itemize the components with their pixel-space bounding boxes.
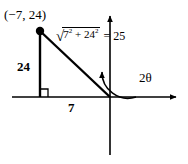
radical-expression: √ 72 + 242	[56, 28, 100, 43]
terminal-point-dot	[36, 27, 44, 35]
radicand-second-exponent: 2	[95, 27, 99, 35]
hypotenuse-equals-value: = 25	[103, 30, 125, 42]
vertical-leg-label: 24	[17, 60, 30, 73]
radicand-plus-operator: +	[72, 28, 84, 40]
radicand-second-term: 24	[84, 28, 95, 40]
angle-label-2theta: 2θ	[139, 71, 152, 84]
hypotenuse-expression-label: √ 72 + 242 = 25	[56, 28, 125, 43]
point-coordinates-label: (−7, 24)	[4, 8, 46, 21]
horizontal-leg-label: 7	[68, 101, 75, 114]
trig-diagram-figure: (−7, 24) 24 7 2θ √ 72 + 242 = 25	[0, 0, 188, 164]
diagram-canvas	[0, 0, 188, 164]
radicand-group: 72 + 242	[62, 27, 100, 42]
